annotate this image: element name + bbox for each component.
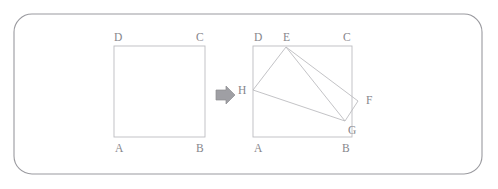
label-right-H: H xyxy=(238,84,247,96)
diagonal-EG xyxy=(286,47,345,121)
transformed-figure-group: D E C H F G A B xyxy=(238,31,373,154)
label-left-D: D xyxy=(114,31,123,43)
right-arrow-outline-icon xyxy=(216,86,235,104)
geometry-figure: D C A B D E C H F G A B xyxy=(0,0,498,189)
original-rectangle-group: D C A B xyxy=(114,31,205,154)
label-right-D: D xyxy=(254,31,263,43)
rounded-frame xyxy=(14,14,482,174)
label-right-A: A xyxy=(254,142,263,154)
label-left-C: C xyxy=(196,31,204,43)
figure-container: D C A B D E C H F G A B xyxy=(0,0,498,189)
original-rectangle xyxy=(114,46,205,137)
label-left-A: A xyxy=(115,142,124,154)
transformation-arrow-group xyxy=(216,86,235,104)
label-right-G: G xyxy=(348,124,357,136)
label-right-F: F xyxy=(366,94,373,106)
label-left-B: B xyxy=(196,142,204,154)
label-right-E: E xyxy=(283,31,290,43)
rotated-rectangle-EFGH xyxy=(253,47,358,121)
label-right-C: C xyxy=(343,31,351,43)
label-right-B: B xyxy=(342,142,350,154)
